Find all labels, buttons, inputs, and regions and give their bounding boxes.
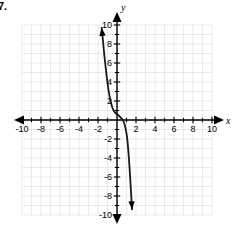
y-tick-label: 10 xyxy=(102,20,112,30)
y-tick-label: 4 xyxy=(107,77,112,87)
y-tick-label: -8 xyxy=(104,191,112,201)
y-tick-label: 2 xyxy=(107,96,112,106)
x-tick-label: -8 xyxy=(37,124,45,134)
coordinate-plane: -10-8-6-4-2246810 108642-2-4-6-8-10 x y xyxy=(0,0,233,231)
y-axis-name-label: y xyxy=(120,2,126,13)
y-tick-label: -10 xyxy=(99,210,112,220)
worksheet-problem-figure: 7. -10-8-6-4-2246810 108642-2-4-6-8-10 x xyxy=(0,0,233,231)
x-tick-label: -10 xyxy=(15,124,28,134)
x-tick-label: -2 xyxy=(94,124,102,134)
y-tick-label: -6 xyxy=(104,172,112,182)
y-tick-label: 6 xyxy=(107,58,112,68)
x-tick-label: 8 xyxy=(190,124,195,134)
x-tick-label: 6 xyxy=(171,124,176,134)
y-tick-label: -2 xyxy=(104,134,112,144)
coordinate-plane-svg: -10-8-6-4-2246810 108642-2-4-6-8-10 x y xyxy=(0,0,233,231)
x-tick-label: 4 xyxy=(152,124,157,134)
x-tick-label: 2 xyxy=(133,124,138,134)
y-tick-label: -4 xyxy=(104,153,112,163)
y-tick-label: 8 xyxy=(107,39,112,49)
x-tick-label: 10 xyxy=(207,124,217,134)
x-axis-name-label: x xyxy=(225,115,231,126)
x-tick-label: -6 xyxy=(56,124,64,134)
y-axis-top-arrow-icon xyxy=(113,12,122,22)
x-tick-label: -4 xyxy=(75,124,83,134)
